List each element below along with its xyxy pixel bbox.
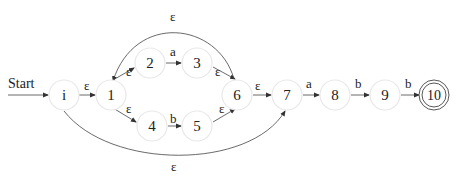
edge-label-3-6: ε (215, 64, 221, 79)
edge-label-2-3: a (170, 44, 176, 59)
edge-label-7-8: a (306, 76, 312, 91)
edge-label-1-2: ε (126, 64, 132, 79)
edge-label-i-1: ε (84, 78, 90, 93)
edge-1-4 (113, 108, 136, 122)
nfa-diagram: Start ε ε a ε ε b ε ε ε ε a b b (0, 0, 456, 181)
edge-label-6-1: ε (170, 9, 176, 24)
edge-label-4-5: b (170, 111, 177, 126)
edge-label-8-9: b (355, 76, 362, 91)
state-label-3: 3 (193, 55, 201, 71)
state-label-2: 2 (146, 55, 154, 71)
start-label: Start (8, 76, 35, 91)
state-label-6: 6 (233, 87, 241, 103)
state-label-i: i (62, 87, 66, 103)
state-label-8: 8 (331, 87, 339, 103)
edge-label-9-10: b (405, 76, 412, 91)
state-label-7: 7 (283, 87, 291, 103)
state-label-10: 10 (427, 88, 441, 103)
state-label-1: 1 (107, 87, 115, 103)
edge-label-6-7: ε (255, 78, 261, 93)
state-label-9: 9 (381, 87, 389, 103)
state-label-4: 4 (148, 118, 156, 134)
edge-label-i-7: ε (171, 159, 177, 174)
edge-label-1-4: ε (126, 101, 132, 116)
state-label-5: 5 (193, 118, 201, 134)
